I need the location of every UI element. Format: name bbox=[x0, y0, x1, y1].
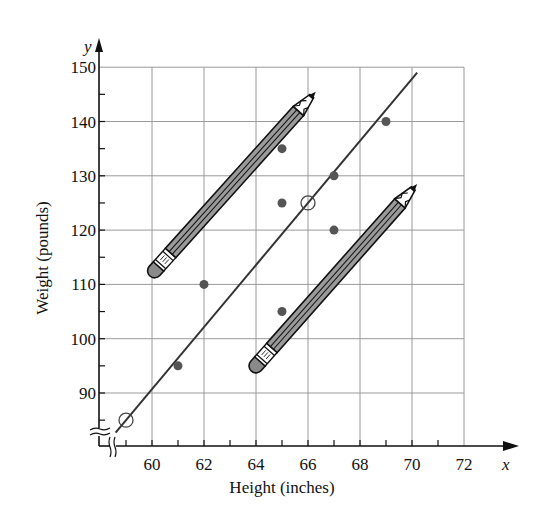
x-tick-label: 66 bbox=[300, 455, 317, 474]
x-tick-label: 64 bbox=[248, 455, 266, 474]
data-point bbox=[174, 361, 183, 370]
scatter-plot: 6062646668707290100110120130140150 Heigh… bbox=[0, 0, 539, 523]
pencil-icon bbox=[246, 179, 422, 375]
y-axis-break-icon bbox=[90, 428, 110, 435]
data-point bbox=[330, 226, 339, 235]
y-tick-label: 150 bbox=[71, 58, 97, 77]
x-tick-label: 60 bbox=[144, 455, 161, 474]
pencil-icon bbox=[145, 87, 321, 281]
data-point bbox=[382, 117, 391, 126]
data-point bbox=[330, 171, 339, 180]
x-axis-arrow-icon bbox=[503, 441, 519, 451]
y-axis-title: Weight (pounds) bbox=[33, 201, 52, 314]
y-tick-label: 140 bbox=[71, 113, 97, 132]
x-tick-label: 70 bbox=[404, 455, 421, 474]
data-point bbox=[200, 280, 209, 289]
x-axis-break-icon bbox=[109, 437, 116, 457]
x-tick-label: 62 bbox=[196, 455, 213, 474]
data-point bbox=[278, 144, 287, 153]
y-tick-label: 110 bbox=[71, 275, 96, 294]
y-tick-label: 120 bbox=[71, 221, 97, 240]
y-tick-label: 130 bbox=[71, 167, 97, 186]
y-axis-arrow-icon bbox=[95, 38, 103, 52]
x-tick-label: 68 bbox=[352, 455, 369, 474]
y-tick-label: 100 bbox=[71, 330, 97, 349]
x-axis-variable: x bbox=[501, 455, 510, 474]
y-axis-variable: y bbox=[82, 37, 92, 56]
y-tick-label: 90 bbox=[79, 384, 96, 403]
data-point bbox=[278, 307, 287, 316]
x-tick-label: 72 bbox=[456, 455, 473, 474]
x-axis-title: Height (inches) bbox=[229, 478, 334, 497]
pencil-body bbox=[267, 199, 406, 353]
pencil-body bbox=[165, 106, 303, 257]
data-point bbox=[278, 198, 287, 207]
